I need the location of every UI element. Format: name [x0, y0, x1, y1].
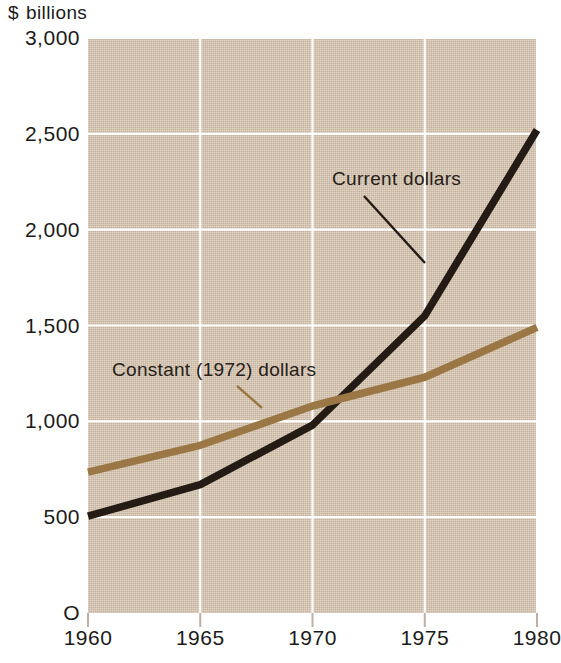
y-tick-label-2000: 2,000 [2, 218, 80, 242]
annotation-current-dollars: Current dollars [332, 168, 461, 190]
x-tick-label-1960: 1960 [64, 626, 113, 650]
leader-line-constant-dollars [237, 386, 262, 408]
annotation-constant-dollars: Constant (1972) dollars [112, 359, 316, 381]
y-tick-label-1500: 1,500 [2, 314, 80, 338]
x-tick-label-1970: 1970 [288, 626, 337, 650]
x-tick-label-1980: 1980 [513, 626, 561, 650]
x-tick-label-1965: 1965 [176, 626, 225, 650]
x-tick-label-1975: 1975 [400, 626, 449, 650]
y-tick-label-2500: 2,500 [2, 122, 80, 146]
plot-area [88, 38, 537, 613]
y-tick-label-3000: 3,000 [2, 26, 80, 50]
x-axis-ticks [88, 613, 537, 627]
y-tick-label-1000: 1,000 [2, 409, 80, 433]
x-axis-tick-labels: 19601965197019751980 [0, 626, 553, 662]
plot-svg [88, 38, 537, 613]
y-tick-label-500: 500 [2, 505, 80, 529]
y-tick-label-0: O [2, 601, 80, 625]
y-axis-tick-labels: O5001,0001,5002,0002,5003,000 [0, 0, 80, 663]
